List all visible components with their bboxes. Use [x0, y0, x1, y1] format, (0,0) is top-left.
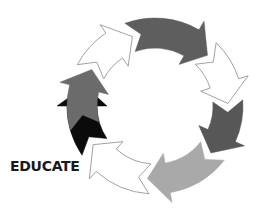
- arrow-right-grey-icon: [199, 100, 245, 153]
- arrow-top-grey-icon: [125, 18, 208, 64]
- arrow-top-left-white-icon: [77, 25, 132, 79]
- cycle-diagram: [0, 0, 265, 212]
- educate-label: EDUCATE: [10, 158, 80, 174]
- arrow-bottom-white-icon: [89, 142, 151, 194]
